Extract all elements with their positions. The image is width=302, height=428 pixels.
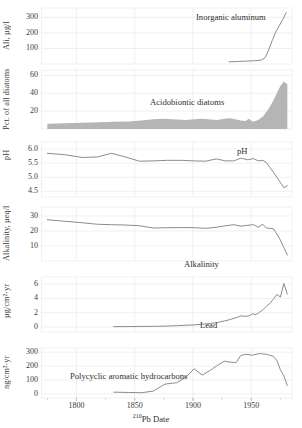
series-label-4: Alkalinity xyxy=(184,259,219,269)
plot-area-3 xyxy=(0,0,302,428)
data-line-3 xyxy=(47,153,287,187)
plot-area-4 xyxy=(0,0,302,428)
x-tick-label: 1900 xyxy=(173,402,213,410)
x-axis-title-isotope: 210 xyxy=(133,413,142,419)
plot-area-5 xyxy=(0,0,302,428)
x-axis-title: 210Pb Date xyxy=(0,414,302,424)
y-axis-title-3: pH xyxy=(2,140,11,170)
plot-frame xyxy=(42,207,293,261)
series-label-1: Inorganic aluminum xyxy=(196,12,266,22)
y-axis-title-unit: ng/cm²·yr xyxy=(2,355,11,388)
y-axis-title-unit: µg/l xyxy=(2,22,11,36)
x-axis-title-main: Pb Date xyxy=(142,414,169,424)
plot-frame xyxy=(42,277,293,332)
multi-panel-time-series-figure: 100200300Ali, µg/lInorganic aluminum2040… xyxy=(0,0,302,428)
series-label-6: Polycyclic aromatic hydrocarbons xyxy=(70,371,187,381)
y-axis-title-unit: µg/cm²·yr xyxy=(2,284,11,318)
series-label-2: Acidobiontic diatoms xyxy=(150,97,224,107)
data-line-4 xyxy=(47,220,287,255)
y-axis-title-2: Pct. of all diatoms xyxy=(2,66,11,132)
y-axis-title-unit: µeq/l xyxy=(2,205,11,223)
y-tick-label: 5.0 xyxy=(0,173,38,181)
series-label-5: Lead xyxy=(200,320,217,330)
y-axis-title-1: Ali, µg/l xyxy=(2,8,11,64)
y-axis-title-main: Ali, xyxy=(2,35,11,50)
y-axis-title-4: Alkalinity, µeq/l xyxy=(2,200,11,266)
y-tick-label: 4.5 xyxy=(0,187,38,195)
y-axis-title-6: ng/cm²·yr xyxy=(2,345,11,399)
plot-area-6 xyxy=(0,0,302,428)
plot-frame xyxy=(42,142,293,197)
y-axis-title-main: Alkalinity, xyxy=(2,223,11,261)
x-tick-label: 1850 xyxy=(115,402,155,410)
y-axis-title-5: µg/cm²·yr xyxy=(2,272,11,330)
x-tick-label: 1800 xyxy=(56,402,96,410)
plot-area-1 xyxy=(0,0,302,428)
series-label-3: pH xyxy=(237,146,248,156)
plot-area-2 xyxy=(0,0,302,428)
x-tick-label: 1950 xyxy=(231,402,271,410)
